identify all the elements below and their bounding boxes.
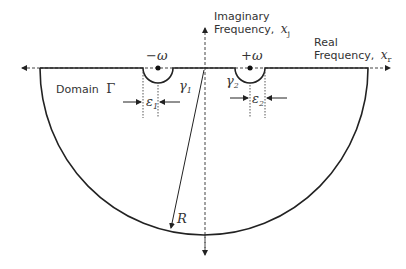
epsilon-1-label: ε1: [146, 94, 158, 111]
domain-symbol: Γ: [106, 81, 115, 96]
gamma-1-label: γ1: [179, 78, 192, 95]
svg-text:Frequency, xj: Frequency, xj: [214, 22, 290, 38]
contour-diagram: Imaginary Frequency, xj Real Frequency, …: [0, 0, 406, 269]
real-label-line2: Frequency,: [314, 49, 374, 62]
imaginary-label-line1: Imaginary: [214, 10, 270, 23]
epsilon-guides: [143, 72, 265, 118]
epsilon-2-label: ε2: [252, 91, 264, 108]
domain-label: Domain: [56, 83, 99, 96]
pole-minus-omega-label: −ω: [146, 48, 168, 63]
real-label-line1: Real: [314, 36, 338, 49]
radius-label: R: [176, 211, 187, 226]
imaginary-label-line2: Frequency,: [214, 23, 274, 36]
pole-minus-omega-dot: [156, 66, 161, 71]
svg-text:Domain Γ: Domain Γ: [56, 81, 115, 96]
pole-plus-omega-dot: [248, 66, 253, 71]
svg-text:Frequency, xr: Frequency, xr: [314, 48, 392, 64]
pole-plus-omega-label: +ω: [241, 48, 263, 63]
